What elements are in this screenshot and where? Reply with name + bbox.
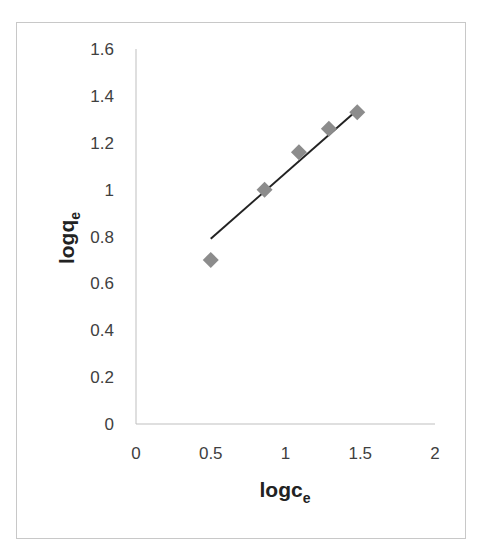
- y-tick-label: 0.4: [90, 321, 114, 340]
- x-axis-title-main: logc: [260, 478, 303, 501]
- y-tick-label: 0.8: [90, 228, 114, 247]
- data-points: [203, 104, 366, 268]
- x-tick-labels: 00.511.52: [131, 444, 439, 463]
- y-axis-title: logqe: [55, 212, 83, 264]
- diamond-marker: [321, 121, 337, 137]
- scatter-chart: 00.20.40.60.811.21.41.6 00.511.52 logce …: [0, 0, 485, 553]
- x-tick-label: 1.5: [348, 444, 372, 463]
- y-tick-label: 1.6: [90, 40, 114, 59]
- y-axis-title-subscript: e: [67, 212, 83, 220]
- x-tick-label: 1: [281, 444, 290, 463]
- x-tick-label: 2: [430, 444, 439, 463]
- y-axis-title-main: logq: [55, 220, 78, 264]
- x-tick-label: 0.5: [199, 444, 223, 463]
- y-tick-label: 1: [105, 181, 114, 200]
- x-axis-title-subscript: e: [303, 490, 311, 506]
- diamond-marker: [203, 252, 219, 268]
- x-tick-label: 0: [131, 444, 140, 463]
- y-tick-label: 0.2: [90, 368, 114, 387]
- y-tick-label: 1.2: [90, 134, 114, 153]
- y-tick-label: 0: [105, 415, 114, 434]
- y-tick-label: 0.6: [90, 274, 114, 293]
- diamond-marker: [349, 104, 365, 120]
- y-tick-label: 1.4: [90, 87, 114, 106]
- x-axis-title: logce: [260, 478, 311, 506]
- diamond-marker: [291, 144, 307, 160]
- y-tick-labels: 00.20.40.60.811.21.41.6: [90, 40, 114, 434]
